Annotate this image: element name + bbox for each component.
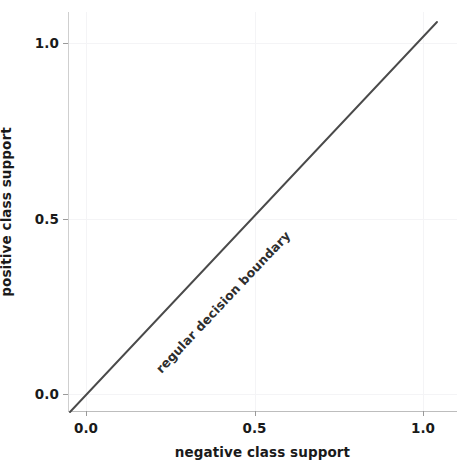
y-tick-label-0.5: 0.5	[35, 211, 59, 227]
y-tick-label-1: 1.0	[35, 35, 59, 51]
x-tick-label-1: 1.0	[411, 420, 435, 436]
decision-boundary-line	[68, 12, 457, 412]
y-axis-title: positive class support	[0, 127, 14, 296]
y-tick-label-0: 0.0	[35, 386, 59, 402]
chart-figure: 0.0 0.5 1.0 0.0 0.5 1.0 regular decision…	[0, 0, 465, 475]
plot-area: 0.0 0.5 1.0 0.0 0.5 1.0 regular decision…	[68, 12, 457, 412]
x-axis-title: negative class support	[68, 444, 457, 460]
identity-line	[70, 22, 437, 412]
x-tick-label-0: 0.0	[74, 420, 98, 436]
x-tick-label-0.5: 0.5	[242, 420, 266, 436]
